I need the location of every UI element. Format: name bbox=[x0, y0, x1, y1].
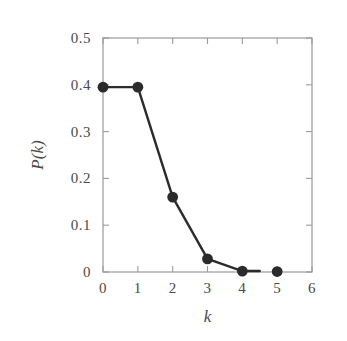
y-tick-label: 0.3 bbox=[20, 123, 91, 140]
data-series bbox=[98, 82, 283, 277]
y-axis-title: P(k) bbox=[28, 140, 48, 169]
x-tick-label: 1 bbox=[134, 280, 142, 297]
axis-ticks bbox=[103, 38, 312, 272]
y-tick-label: 0.1 bbox=[20, 217, 91, 234]
x-tick-label: 5 bbox=[273, 280, 281, 297]
x-tick-label: 3 bbox=[204, 280, 212, 297]
x-tick-label: 2 bbox=[169, 280, 177, 297]
y-tick-label: 0 bbox=[20, 264, 91, 281]
x-tick-label: 4 bbox=[238, 280, 246, 297]
y-tick-label: 0.4 bbox=[20, 76, 91, 93]
y-tick-label: 0.2 bbox=[20, 170, 91, 187]
x-tick-label: 0 bbox=[99, 280, 107, 297]
y-tick-label: 0.5 bbox=[20, 30, 91, 47]
x-tick-label: 6 bbox=[308, 280, 316, 297]
axes-frame bbox=[103, 38, 312, 272]
chart-figure: 00.10.20.30.40.5 0123456 P(k) k bbox=[0, 0, 347, 341]
x-axis-title: k bbox=[204, 307, 212, 327]
